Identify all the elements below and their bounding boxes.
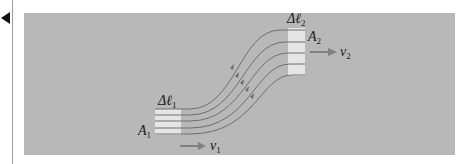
area-a2-label: A2 xyxy=(308,30,321,46)
velocity-arrow-2 xyxy=(310,48,337,56)
fluid-element-2 xyxy=(288,28,305,76)
area-a1-label: A1 xyxy=(138,124,151,140)
flow-tube-diagram xyxy=(0,0,476,164)
delta-l1-label: Δℓ1 xyxy=(158,94,177,110)
velocity-arrow-1 xyxy=(180,142,206,150)
flow-direction-markers xyxy=(230,64,254,99)
velocity-v1-label: v1 xyxy=(210,139,221,155)
fluid-element-1 xyxy=(155,109,181,135)
delta-l2-label: Δℓ2 xyxy=(287,12,306,28)
velocity-v2-label: v2 xyxy=(340,45,351,61)
